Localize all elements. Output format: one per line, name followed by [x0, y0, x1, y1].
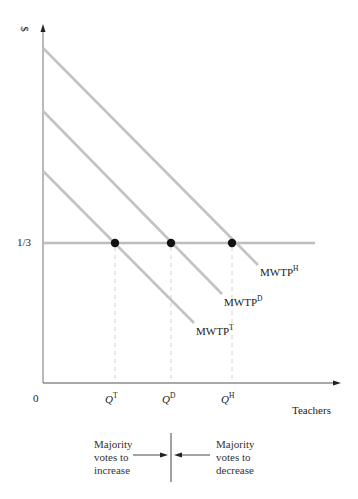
x-axis-label: Teachers — [292, 404, 331, 416]
point-qh — [228, 239, 236, 247]
decrease-arrow-icon — [174, 453, 182, 458]
y-axis-label: $ — [19, 26, 31, 32]
qt-label: QT — [105, 391, 118, 405]
mwtp-d-label: MWTPD — [224, 294, 262, 308]
qh-label: QH — [221, 391, 234, 405]
price-tick-label: 1/3 — [17, 236, 31, 248]
increase-note: Majority votes to increase — [94, 438, 133, 477]
qd-label: QD — [162, 391, 175, 405]
decrease-note: Majority votes to decrease — [216, 438, 255, 477]
mwtp-h-curve — [43, 48, 258, 265]
mwtp-t-label: MWTPT — [196, 323, 234, 337]
mwtp-diagram — [0, 0, 358, 499]
increase-arrow-icon — [160, 453, 168, 458]
x-axis-arrow-icon — [333, 381, 341, 386]
point-qt — [111, 239, 119, 247]
y-axis-arrow-icon — [41, 24, 46, 32]
point-qd — [167, 239, 175, 247]
origin-label: 0 — [33, 392, 39, 404]
mwtp-h-label: MWTPH — [260, 264, 298, 278]
